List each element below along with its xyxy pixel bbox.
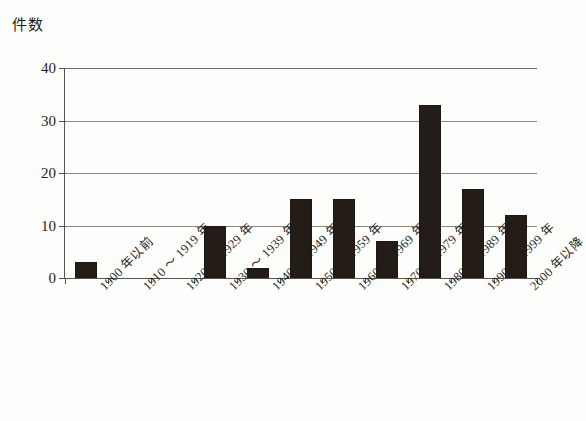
x-tick-mark: [65, 278, 66, 284]
y-axis-caption: 件数: [12, 18, 43, 33]
y-tick-label: 10: [41, 218, 56, 233]
y-tick-mark: [59, 173, 66, 174]
y-tick-label: 20: [41, 166, 56, 181]
y-tick-mark: [59, 68, 66, 69]
y-tick-mark: [59, 226, 66, 227]
gridline: [65, 173, 537, 174]
y-tick-label: 0: [49, 271, 57, 286]
x-axis-line: [64, 278, 538, 279]
y-tick-label: 40: [41, 61, 56, 76]
y-tick-mark: [59, 121, 66, 122]
bar: [75, 262, 97, 278]
gridline: [65, 68, 537, 69]
gridline: [65, 121, 537, 122]
y-tick-label: 30: [41, 113, 56, 128]
